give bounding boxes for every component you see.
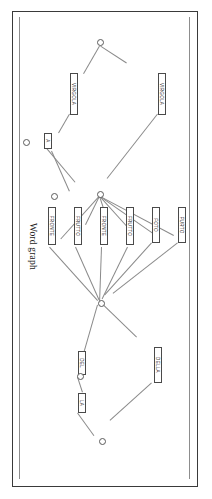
word-graph-panel: VIRGOLA VIRGOLA A FURTO FOTO FRUTTO FRON… [12,11,198,487]
graph-edge [83,46,100,74]
graph-edge [99,247,102,301]
graph-node [99,438,106,445]
graph-node [97,39,104,46]
graph-word-box-la[interactable]: LA [78,393,86,413]
graph-node [98,300,105,307]
graph-word-box-virgola-2[interactable]: VIRGOLA [70,73,78,115]
graph-edge [107,114,158,179]
figure-page: VIRGOLA VIRGOLA A FURTO FOTO FRUTTO FRON… [0,0,212,499]
graph-word-box-furto[interactable]: FURTO [178,207,186,243]
graph-edge [110,383,152,421]
graph-edge [85,196,100,225]
graph-node [97,191,104,198]
graph-edge [99,196,174,236]
graph-word-box-frutto-1[interactable]: FRUTTO [126,207,134,245]
graph-edge [103,305,137,338]
graph-edge [58,114,70,133]
graph-word-box-della[interactable]: DELLA [154,347,162,383]
rotated-figure-container: VIRGOLA VIRGOLA A FURTO FOTO FRUTTO FRON… [12,11,198,487]
graph-word-box-foto[interactable]: FOTO [152,207,160,243]
graph-edge [100,46,126,64]
graph-node [77,373,84,380]
graph-edge [45,147,75,183]
graph-edge [49,247,98,301]
graph-word-box-virgola-1[interactable]: VIRGOLA [158,73,166,115]
graph-word-box-a-1[interactable]: A [44,133,52,149]
graph-word-box-fronte-2[interactable]: FRONTE [48,207,56,245]
graph-word-box-frutto-2[interactable]: FRUTTO [74,207,82,245]
graph-edge [75,247,99,300]
graph-word-box-del[interactable]: DEL [78,351,86,375]
graph-node [23,139,30,146]
word-graph-caption: Word graph [28,223,38,270]
word-lattice-panel: VIRGOLA FURTO DELLA GOLA FRUTTO DEL [0,11,12,487]
graph-word-box-fronte-1[interactable]: FRONTE [100,207,108,245]
graph-node [51,193,58,200]
graph-edge [77,413,94,436]
